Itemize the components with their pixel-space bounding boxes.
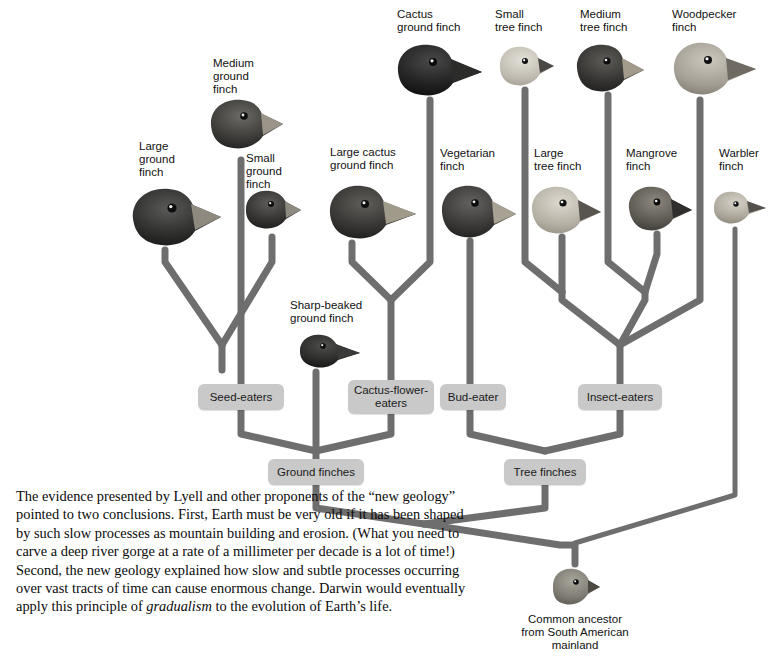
branch-large-cactus-ground-finch bbox=[352, 243, 391, 300]
branch-insect-eaters-to-tree bbox=[545, 410, 620, 451]
bird-large-cactus-ground-finch bbox=[324, 181, 418, 243]
body-paragraph: The evidence presented by Lyell and othe… bbox=[16, 487, 478, 616]
taxon-label-mangrove-finch: Mangrove finch bbox=[626, 147, 677, 173]
bird-sharp-beaked-ground-finch bbox=[296, 331, 362, 371]
taxon-label-woodpecker-finch: Woodpecker finch bbox=[672, 8, 736, 34]
bird-medium-ground-finch bbox=[205, 95, 285, 153]
taxon-label-sharp-beaked-ground-finch: Sharp-beaked ground finch bbox=[290, 299, 362, 325]
taxon-label-large-tree-finch: Large tree finch bbox=[534, 147, 581, 173]
bird-woodpecker-finch bbox=[668, 38, 758, 100]
bird-medium-tree-finch bbox=[572, 40, 646, 95]
taxon-label-medium-tree-finch: Medium tree finch bbox=[580, 8, 627, 34]
finch-phylogeny-figure: .br{fill:none;stroke:#6e6e6e;stroke-widt… bbox=[0, 0, 784, 660]
branch-bud-eater-to-tree bbox=[470, 410, 545, 451]
taxon-label-cactus-ground-finch: Cactus ground finch bbox=[397, 8, 460, 34]
branch-seed-eaters-to-ground bbox=[241, 410, 316, 451]
node-cactus-flower-eaters[interactable]: Cactus-flower- eaters bbox=[348, 380, 434, 414]
node-tree-finches[interactable]: Tree finches bbox=[504, 459, 586, 485]
branch-mangrove-finch bbox=[645, 234, 657, 292]
body-paragraph-part2: to the evolution of Earth’s life. bbox=[212, 598, 392, 614]
branch-small-ground-finch bbox=[222, 237, 272, 345]
taxon-label-small-ground-finch: Small ground finch bbox=[246, 152, 282, 191]
branch-large-ground-finch bbox=[165, 250, 222, 345]
body-paragraph-emphasis: gradualism bbox=[146, 598, 212, 614]
taxon-label-large-cactus-ground-finch: Large cactus ground finch bbox=[330, 146, 396, 172]
bird-vegetarian-finch bbox=[436, 181, 518, 241]
node-insect-eaters[interactable]: Insect-eaters bbox=[578, 384, 662, 410]
common-ancestor-label: Common ancestor from South American main… bbox=[480, 613, 670, 652]
taxon-label-warbler-finch: Warbler finch bbox=[719, 147, 759, 173]
bird-large-ground-finch bbox=[125, 183, 223, 251]
taxon-label-large-ground-finch: Large ground finch bbox=[139, 140, 175, 179]
bird-small-tree-finch bbox=[495, 42, 557, 90]
branch-cactus-flower-to-ground bbox=[316, 414, 391, 451]
bird-small-ground-finch bbox=[241, 187, 303, 232]
branch-insect-junction-a bbox=[562, 292, 620, 345]
taxon-label-small-tree-finch: Small tree finch bbox=[495, 8, 542, 34]
taxon-label-vegetarian-finch: Vegetarian finch bbox=[440, 147, 495, 173]
bird-cactus-ground-finch bbox=[392, 40, 484, 100]
node-seed-eaters[interactable]: Seed-eaters bbox=[198, 384, 284, 410]
bird-mangrove-finch bbox=[624, 182, 694, 234]
bird-common-ancestor bbox=[548, 565, 602, 609]
body-paragraph-part1: The evidence presented by Lyell and othe… bbox=[16, 488, 465, 614]
node-bud-eater[interactable]: Bud-eater bbox=[440, 384, 506, 410]
node-ground-finches[interactable]: Ground finches bbox=[268, 459, 364, 485]
bird-large-tree-finch bbox=[527, 182, 603, 237]
bird-warbler-finch bbox=[710, 187, 768, 229]
taxon-label-medium-ground-finch: Medium ground finch bbox=[213, 57, 254, 96]
